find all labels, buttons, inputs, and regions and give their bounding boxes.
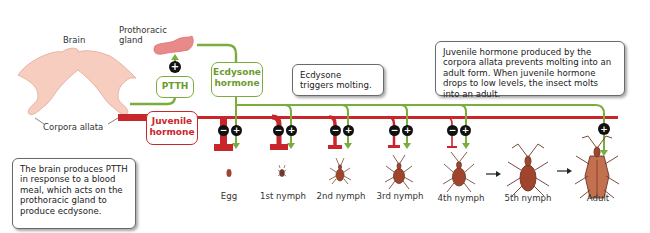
egg-inhibit-sign: − [218,125,229,136]
nymph1-inhibit-sign: − [273,125,284,136]
nymph4-inhibit-sign: − [447,125,458,136]
ecdysone-callout: Ecdysone triggers molting. [292,64,384,96]
juvenile-hormone-box: Juvenile hormone [146,111,198,145]
stage-label-5th-nymph: 5th nymph [498,193,558,203]
fourth-nymph-illustration [443,152,475,192]
third-nymph-illustration [385,155,413,189]
fifth-nymph-illustration [507,144,549,196]
brain-illustration [18,48,136,114]
stage-label-egg: Egg [199,191,259,201]
egg-illustration [227,169,232,177]
brain-ptth-callout: The brain produces PTTH in response to a… [12,158,136,229]
brain-label: Brain [63,36,85,46]
nymph2-inhibit-sign: − [330,125,341,136]
ptth-box: PTTH [156,76,194,98]
nymph4-stimulate-sign: + [460,125,471,136]
second-nymph-illustration [329,158,351,184]
nymph5-stimulate-sign: + [598,123,610,135]
ecdysone-hormone-box: Ecdysone hormone [211,62,263,97]
nymph2-stimulate-sign: + [343,125,354,136]
juvenile-hormone-callout: Juvenile hormone produced by the corpora… [435,41,625,96]
stage-label-2nd-nymph: 2nd nymph [311,191,371,201]
nymph1-stimulate-sign: + [286,125,297,136]
stage-label-3rd-nymph: 3rd nymph [370,191,430,201]
stage-label-adult: Adult [568,193,628,203]
nymph3-stimulate-sign: + [402,125,413,136]
nymph3-inhibit-sign: − [389,125,400,136]
egg-stimulate-sign: + [231,125,242,136]
ptth-stimulate-sign: + [169,61,181,73]
stage-label-1st-nymph: 1st nymph [253,191,313,201]
prothoracic-gland-label: Prothoracic gland [119,26,167,46]
stage-label-4th-nymph: 4th nymph [431,193,491,203]
corpora-allata-label: Corpora allata [43,123,103,133]
adult-illustration [575,136,619,198]
first-nymph-illustration [278,165,286,177]
